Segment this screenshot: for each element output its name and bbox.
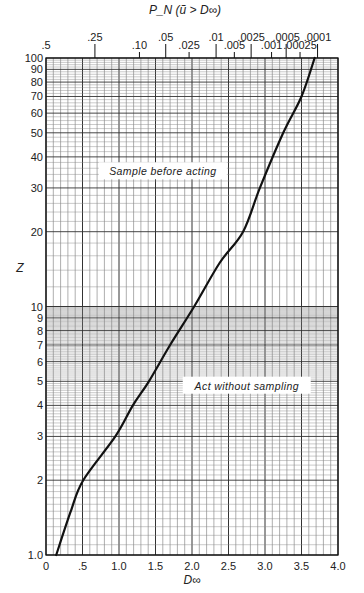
top-tick-label: .25 (87, 31, 102, 43)
y-tick-label: 40 (31, 151, 43, 163)
x-tick-label: 3.5 (294, 560, 309, 572)
x-axis-title: D∞ (183, 573, 201, 587)
y-tick-label: 90 (31, 63, 43, 75)
y-tick-label: 60 (31, 107, 43, 119)
y-tick-label: 50 (31, 127, 43, 139)
x-tick-label: 2.5 (221, 560, 236, 572)
annotation-label: Act without sampling (194, 380, 299, 392)
y-tick-label: 10 (31, 301, 43, 313)
top-tick-label: .5 (41, 39, 50, 51)
y-tick-label: 6 (37, 356, 43, 368)
x-tick-label: 1.5 (148, 560, 163, 572)
y-tick-label: 5 (37, 375, 43, 387)
y-tick-label: 20 (31, 226, 43, 238)
top-tick-label: .0001 (304, 31, 332, 43)
annotation-label: Sample before acting (109, 165, 216, 177)
y-tick-label: 1.0 (28, 549, 43, 561)
x-tick-label: .5 (78, 560, 87, 572)
grid (46, 58, 338, 555)
x-tick-label: 1.0 (111, 560, 126, 572)
y-tick-label: 8 (37, 325, 43, 337)
top-tick-label: .025 (178, 39, 199, 51)
y-tick-label: 9 (37, 312, 43, 324)
top-tick-label: .10 (132, 39, 147, 51)
top-tick-label: .01 (208, 31, 223, 43)
y-tick-label: 70 (31, 90, 43, 102)
top-axis: .5.25.10.05.025.01.005.0025.001.0005.000… (41, 31, 331, 58)
annotations: Sample before actingAct without sampling (99, 162, 311, 393)
y-tick-label: 3 (37, 430, 43, 442)
y-tick-label: 100 (25, 52, 43, 64)
x-tick-label: 0 (43, 560, 49, 572)
x-tick-label: 2.0 (184, 560, 199, 572)
chart: 1.023456789102030405060708090100 0.51.01… (0, 0, 364, 593)
y-tick-label: 80 (31, 76, 43, 88)
top-tick-label: .05 (158, 31, 173, 43)
y-tick-label: 2 (37, 474, 43, 486)
y-tick-label: 30 (31, 182, 43, 194)
top-axis-title: P_N (ũ > D∞) (149, 3, 221, 17)
y-tick-label: 7 (37, 339, 43, 351)
y-axis: 1.023456789102030405060708090100 (25, 52, 43, 561)
x-axis: 0.51.01.52.02.53.03.54.0 (43, 560, 346, 572)
y-axis-title: Z (15, 261, 24, 275)
y-tick-label: 4 (37, 399, 43, 411)
x-tick-label: 3.0 (257, 560, 272, 572)
x-tick-label: 4.0 (330, 560, 345, 572)
